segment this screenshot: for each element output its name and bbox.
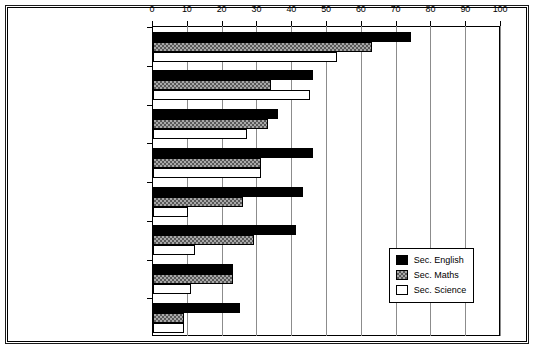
tick-0 [152, 21, 153, 26]
category-tick [147, 182, 152, 183]
legend-label: Sec. English [414, 255, 464, 265]
tick-60 [361, 21, 362, 26]
chart-legend: Sec. EnglishSec. MathsSec. Science [389, 248, 475, 303]
legend-item: Sec. Maths [396, 269, 467, 282]
category-tick [147, 260, 152, 261]
legend-label: Sec. Maths [414, 270, 459, 280]
x-tick-label-80: 80 [415, 5, 445, 14]
category-tick [147, 105, 152, 106]
category-tick [147, 143, 152, 144]
tick-30 [256, 21, 257, 26]
x-tick-label-0: 0 [137, 5, 167, 14]
legend-swatch-science [396, 285, 408, 295]
bar [153, 235, 254, 245]
tick-10 [187, 21, 188, 26]
bar-group [153, 32, 501, 62]
bar-group [153, 148, 501, 178]
x-tick-label-70: 70 [381, 5, 411, 14]
bar [153, 148, 313, 158]
bar [153, 197, 243, 207]
bar [153, 284, 191, 294]
legend-item: Sec. Science [396, 284, 467, 297]
bar [153, 187, 303, 197]
bar [153, 313, 184, 323]
legend-item: Sec. English [396, 254, 467, 267]
bar [153, 42, 372, 52]
bar [153, 52, 337, 62]
tick-80 [430, 21, 431, 26]
category-tick [147, 298, 152, 299]
chart-figure: 0102030405060708090100 Sec. EnglishSec. … [0, 0, 536, 351]
bar [153, 323, 184, 333]
x-tick-label-90: 90 [450, 5, 480, 14]
x-tick-label-100: 100 [485, 5, 515, 14]
x-tick-label-50: 50 [311, 5, 341, 14]
x-tick-label-10: 10 [172, 5, 202, 14]
bar [153, 32, 411, 42]
x-tick-label-20: 20 [207, 5, 237, 14]
x-tick-label-30: 30 [241, 5, 271, 14]
x-tick-label-40: 40 [276, 5, 306, 14]
tick-40 [291, 21, 292, 26]
bar [153, 274, 233, 284]
x-tick-label-60: 60 [346, 5, 376, 14]
bar [153, 109, 278, 119]
tick-70 [396, 21, 397, 26]
bar [153, 264, 233, 274]
tick-50 [326, 21, 327, 26]
tick-20 [222, 21, 223, 26]
tick-100 [500, 21, 501, 26]
bar [153, 168, 261, 178]
bar-group [153, 303, 501, 333]
bar [153, 245, 195, 255]
bar [153, 207, 188, 217]
bar [153, 158, 261, 168]
legend-label: Sec. Science [414, 285, 467, 295]
bar-group [153, 70, 501, 100]
bar [153, 80, 271, 90]
bar [153, 225, 296, 235]
legend-swatch-maths [396, 270, 408, 280]
plot-area: 0102030405060708090100 Sec. EnglishSec. … [152, 26, 500, 336]
bar [153, 90, 310, 100]
bar-group [153, 109, 501, 139]
bar-group [153, 187, 501, 217]
category-tick [147, 66, 152, 67]
bar [153, 303, 240, 313]
bar [153, 129, 247, 139]
category-tick [147, 221, 152, 222]
category-tick [147, 27, 152, 28]
bar [153, 70, 313, 80]
bar [153, 119, 268, 129]
tick-90 [465, 21, 466, 26]
legend-swatch-english [396, 255, 408, 265]
